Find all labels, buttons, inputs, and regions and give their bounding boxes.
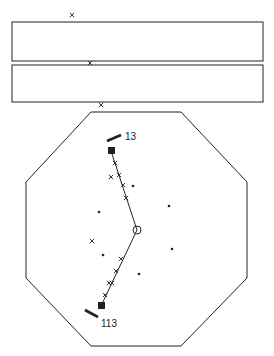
top-rectangles	[12, 22, 263, 102]
rectangle-1	[12, 22, 263, 61]
bar-label: 113	[101, 318, 117, 329]
diagram-canvas: 13113	[0, 0, 274, 356]
top-end-square	[108, 147, 115, 154]
x-mark-icon	[119, 257, 123, 261]
scatter-dots	[98, 185, 174, 276]
dot-icon	[138, 273, 141, 276]
trajectory-line	[101, 151, 137, 306]
dot-icon	[98, 211, 101, 214]
x-mark-icon	[99, 103, 103, 107]
bar-113	[85, 310, 98, 317]
x-mark-icon	[110, 281, 114, 285]
bottom-end-square	[98, 302, 105, 309]
x-mark-icon	[90, 239, 94, 243]
dot-icon	[168, 205, 171, 208]
dot-icon	[102, 254, 105, 257]
top-x-marks	[70, 13, 103, 107]
label-bars: 13113	[85, 131, 137, 329]
rectangle-2	[12, 65, 263, 102]
x-mark-icon	[70, 13, 74, 17]
dot-icon	[132, 185, 135, 188]
bar-label: 13	[125, 131, 137, 142]
dot-icon	[171, 248, 174, 251]
x-mark-icon	[109, 175, 113, 179]
trajectory-x-marks	[103, 161, 128, 297]
end-markers	[98, 147, 115, 309]
bar-13	[107, 135, 121, 141]
scatter-x-marks	[90, 175, 113, 243]
